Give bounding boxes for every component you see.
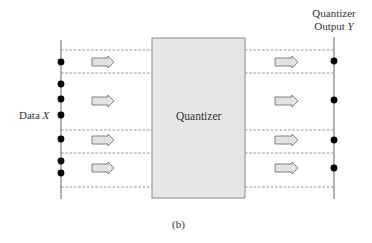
right-arrow-icon — [275, 162, 298, 174]
input-data-point — [58, 59, 65, 66]
input-data-point — [58, 158, 65, 165]
right-arrow-icon — [275, 134, 298, 146]
output-label-prefix: Output — [314, 20, 347, 32]
output-quantized-point — [331, 58, 338, 65]
output-quantized-point — [331, 137, 338, 144]
input-data-point — [58, 96, 65, 103]
output-quantized-point — [331, 165, 338, 172]
right-arrow-icon — [275, 56, 298, 68]
input-data-point — [58, 170, 65, 177]
output-variable: Y — [348, 20, 354, 32]
input-variable: X — [43, 109, 50, 121]
input-data-point — [58, 112, 65, 119]
right-arrow-icon — [275, 95, 298, 107]
output-label: Quantizer Output Y — [306, 7, 362, 32]
right-arrow-icon — [92, 95, 114, 107]
input-label: Data X — [19, 109, 49, 121]
right-arrow-icon — [92, 134, 114, 146]
output-quantized-point — [331, 97, 338, 104]
right-arrow-icon — [92, 162, 114, 174]
input-label-prefix: Data — [19, 109, 43, 121]
input-data-point — [58, 136, 65, 143]
output-label-line1: Quantizer — [306, 7, 362, 20]
output-label-line2: Output Y — [306, 20, 362, 33]
quantizer-block-label: Quantizer — [176, 110, 221, 122]
input-data-point — [58, 81, 65, 88]
figure-caption: (b) — [172, 218, 185, 230]
quantizer-diagram: Data X Quantizer Quantizer Output Y (b) — [0, 0, 372, 243]
right-arrow-icon — [92, 56, 114, 68]
